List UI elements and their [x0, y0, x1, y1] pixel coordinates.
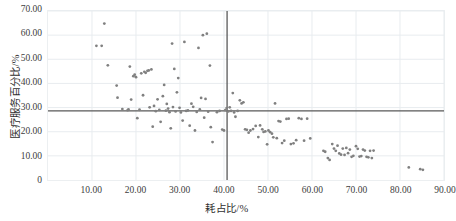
x-tick-label: 20.00: [125, 186, 146, 196]
x-tick-label: 90.00: [434, 186, 455, 196]
y-axis-title-wrap: 医疗服务百分比/%: [0, 0, 14, 191]
x-tick-label: 10.00: [81, 186, 102, 196]
x-tick-label: 50.00: [257, 186, 278, 196]
x-tick-label: 80.00: [390, 186, 411, 196]
y-axis-title: 医疗服务百分比/%: [7, 31, 22, 161]
x-tick-label: 40.00: [213, 186, 234, 196]
x-tick-label: 60.00: [302, 186, 323, 196]
x-tick-label: 30.00: [169, 186, 190, 196]
x-axis-title: 耗占比/%: [0, 200, 454, 215]
x-tick-label: 70.00: [346, 186, 367, 196]
